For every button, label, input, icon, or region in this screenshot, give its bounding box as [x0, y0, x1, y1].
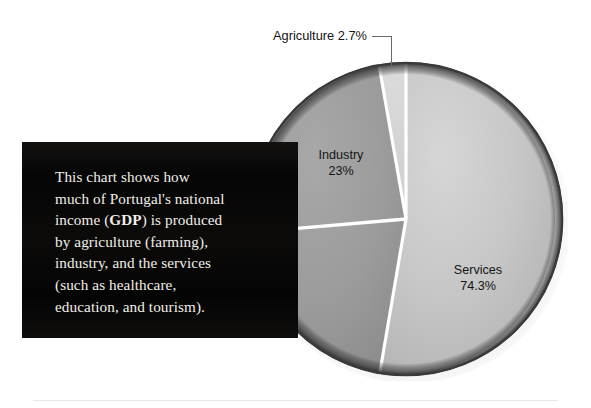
pie-label-services: Services 74.3% — [435, 263, 521, 294]
caption-box: This chart shows how much of Portugal's … — [22, 142, 298, 338]
caption-line-3a: income ( — [55, 211, 109, 228]
pie-label-services-value: 74.3% — [460, 279, 496, 293]
caption-line-4: by agriculture (farming), — [55, 233, 208, 250]
caption-line-6: (such as healthcare, — [55, 276, 176, 293]
caption-line-3b: ) is produced — [142, 211, 223, 228]
caption-line-1: This chart shows how — [55, 168, 190, 185]
agriculture-leader-line-vertical — [391, 36, 392, 66]
pie-label-agriculture: Agriculture 2.7% — [273, 28, 367, 43]
bottom-rule — [33, 400, 558, 401]
caption-line-2: much of Portugal's national — [55, 190, 225, 207]
chart-page: This chart shows how much of Portugal's … — [0, 0, 591, 408]
caption-text: This chart shows how much of Portugal's … — [55, 166, 270, 317]
caption-line-7: education, and tourism). — [55, 298, 205, 315]
pie-label-industry-name: Industry — [319, 148, 364, 162]
pie-label-services-name: Services — [454, 263, 502, 277]
pie-label-industry-value: 23% — [328, 164, 353, 178]
caption-gdp-term: GDP — [109, 211, 141, 228]
agriculture-leader-line-horizontal — [372, 36, 392, 37]
caption-line-5: industry, and the services — [55, 254, 211, 271]
pie-label-industry: Industry 23% — [303, 148, 379, 179]
